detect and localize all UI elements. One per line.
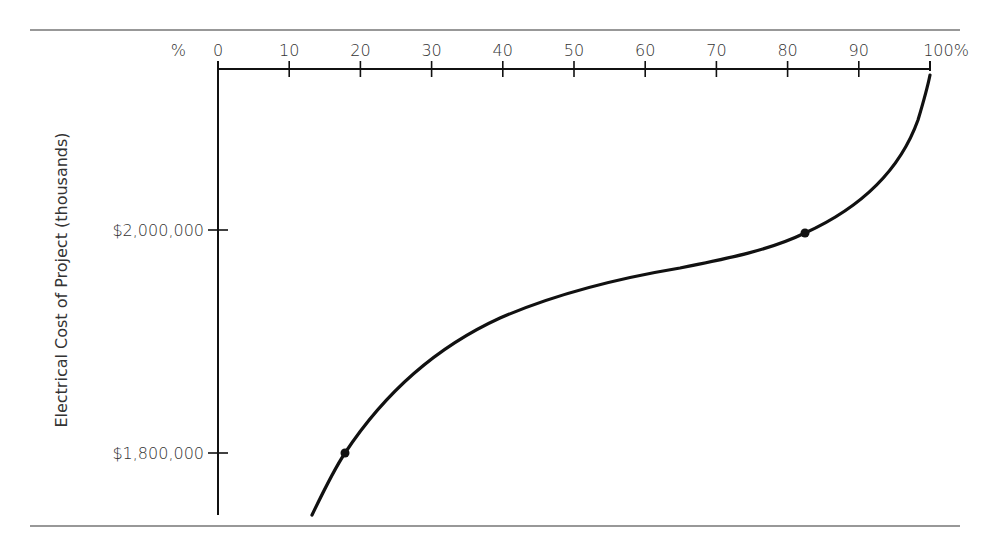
- y-axis-title: Electrical Cost of Project (thousands): [52, 132, 71, 427]
- x-tick-label: 10: [279, 41, 299, 60]
- x-tick-label: 90: [849, 41, 869, 60]
- data-curve: [312, 75, 930, 515]
- data-point: [801, 229, 810, 238]
- x-tick-label: 50: [564, 41, 584, 60]
- y-axis: $2,000,000 $1,800,000: [112, 221, 228, 463]
- x-tick-label: 30: [421, 41, 441, 60]
- x-tick-label: 40: [493, 41, 513, 60]
- x-tick-label: 60: [635, 41, 655, 60]
- x-tick-label: 70: [706, 41, 726, 60]
- data-point: [341, 449, 350, 458]
- x-axis: 0102030405060708090100% %: [171, 41, 969, 515]
- x-tick-label: 100%: [923, 41, 969, 60]
- y-tick-label: $1,800,000: [112, 444, 204, 463]
- x-unit-label: %: [171, 41, 186, 60]
- y-tick-label: $2,000,000: [112, 221, 204, 240]
- x-tick-label: 80: [777, 41, 797, 60]
- chart-canvas: 0102030405060708090100% % $2,000,000 $1,…: [0, 0, 1008, 554]
- x-tick-label: 20: [350, 41, 370, 60]
- x-tick-label: 0: [213, 41, 223, 60]
